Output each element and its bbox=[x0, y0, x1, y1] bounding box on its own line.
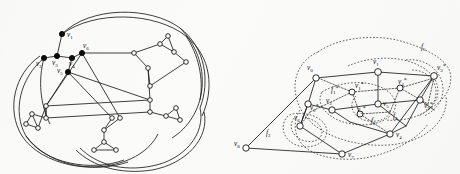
vertex-v1 bbox=[59, 31, 64, 36]
vertex-v0 bbox=[313, 75, 319, 81]
right-graph-vertices bbox=[243, 69, 438, 158]
label-f3: f3 bbox=[371, 116, 376, 126]
right-graph-edges bbox=[246, 72, 434, 154]
vertex-v8 bbox=[243, 145, 249, 151]
label-v6: v6 bbox=[83, 42, 89, 51]
label-f5: f5 bbox=[421, 42, 426, 52]
label-v4: v4 bbox=[69, 60, 75, 69]
left-graph-open-vertices bbox=[24, 34, 189, 153]
vertex-v6 bbox=[79, 50, 84, 55]
left-graph-labeled-vertices bbox=[41, 31, 84, 74]
left-graph-panel: v1 v2 v3 v4 v5 v6 bbox=[0, 0, 230, 174]
right-graph-svg: v0 v1 v3 v5 v4 v6 v7 v8 v1* v2* v3* v4* … bbox=[230, 0, 460, 174]
label-f2: f2 bbox=[266, 128, 271, 138]
vertex-v3 bbox=[54, 53, 59, 58]
left-graph-svg: v1 v2 v3 v4 v5 v6 bbox=[0, 0, 230, 174]
label-v1: v1 bbox=[67, 31, 73, 40]
left-outer-arcs bbox=[14, 12, 209, 171]
label-v4: v4 bbox=[396, 131, 402, 140]
label-v5: v5 bbox=[57, 67, 63, 76]
vertex-v5 bbox=[375, 101, 381, 107]
label-v7: v7 bbox=[348, 151, 354, 160]
label-v3: v3 bbox=[326, 97, 332, 106]
label-f4: f4 bbox=[393, 111, 398, 121]
vertex-v4 bbox=[387, 131, 393, 137]
label-v1: v1 bbox=[373, 58, 379, 67]
vertex-v3 bbox=[329, 107, 335, 113]
vertex-v7 bbox=[339, 151, 345, 157]
vertex-v3-star-node bbox=[431, 73, 438, 80]
label-v2-star: v2* bbox=[310, 103, 319, 112]
right-graph-panel: v0 v1 v3 v5 v4 v6 v7 v8 v1* v2* v3* v4* … bbox=[230, 0, 460, 174]
label-f1: f1* bbox=[331, 85, 339, 95]
label-v0: v0 bbox=[307, 64, 313, 73]
vertex-v5 bbox=[65, 69, 70, 74]
vertex-v2-star-alt-node bbox=[417, 97, 423, 103]
label-v8: v8 bbox=[234, 140, 240, 149]
vertex-v6 bbox=[297, 123, 303, 129]
label-v6: v6 bbox=[294, 114, 300, 123]
vertex-v1 bbox=[375, 69, 382, 76]
label-v4-star: v4* bbox=[398, 77, 407, 86]
label-v5: v5 bbox=[383, 100, 389, 109]
left-graph-edges bbox=[26, 34, 186, 150]
label-v2: v2 bbox=[36, 60, 42, 69]
label-v3-star: v3* bbox=[437, 63, 446, 72]
vertex-v2 bbox=[41, 55, 46, 60]
dual-face-regions bbox=[283, 37, 451, 159]
label-v5-star: v5* bbox=[357, 105, 366, 114]
figure-container: v1 v2 v3 v4 v5 v6 bbox=[0, 0, 460, 174]
